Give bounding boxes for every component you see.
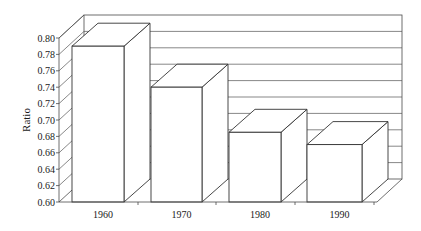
x-tick-label: 1990 (330, 209, 350, 220)
y-tick-label: 0.62 (38, 180, 56, 191)
bar-1990 (307, 122, 388, 202)
y-axis-title: Ratio (20, 108, 32, 132)
bar-1960 (72, 23, 150, 202)
x-tick-label: 1980 (250, 209, 270, 220)
x-tick-label: 1960 (93, 209, 113, 220)
bar-front-face (72, 46, 124, 202)
x-axis: 1960197019801990 (59, 202, 377, 220)
y-tick-label: 0.80 (38, 33, 56, 44)
y-tick-label: 0.76 (38, 65, 56, 76)
y-tick-label: 0.68 (38, 131, 56, 142)
bar-front-face (151, 87, 202, 202)
y-tick-label: 0.78 (38, 49, 56, 60)
bar-front-face (229, 132, 281, 202)
bars (72, 23, 388, 202)
y-tick-label: 0.66 (38, 147, 56, 158)
x-tick-label: 1970 (172, 209, 192, 220)
bar-1970 (151, 64, 228, 202)
bar-side-face (202, 64, 228, 202)
y-tick-label: 0.64 (38, 164, 56, 175)
y-tick-label: 0.70 (38, 115, 56, 126)
y-axis: 0.600.620.640.660.680.700.720.740.760.78… (38, 33, 60, 208)
bar-1980 (229, 109, 307, 202)
bar-side-face (124, 23, 150, 202)
chart-container: 0.600.620.640.660.680.700.720.740.760.78… (0, 0, 421, 231)
y-tick-label: 0.60 (38, 197, 56, 208)
bar-front-face (307, 145, 362, 202)
y-tick-label: 0.74 (38, 82, 56, 93)
bar-chart-3d: 0.600.620.640.660.680.700.720.740.760.78… (0, 0, 421, 231)
y-tick-label: 0.72 (38, 98, 56, 109)
